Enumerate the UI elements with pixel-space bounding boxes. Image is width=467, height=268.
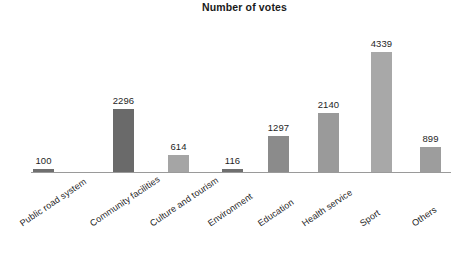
bar bbox=[113, 109, 134, 172]
plot-area: 1002296614116129721404339899 Public road… bbox=[0, 0, 467, 268]
bar-value-label: 116 bbox=[213, 155, 253, 166]
bar-value-label: 2296 bbox=[104, 95, 144, 106]
x-axis-baseline bbox=[31, 172, 451, 173]
bar-value-label: 899 bbox=[411, 133, 451, 144]
category-label: Sport bbox=[358, 208, 382, 229]
bar-value-label: 1297 bbox=[259, 122, 299, 133]
bar bbox=[268, 136, 289, 172]
category-label: Education bbox=[256, 197, 296, 228]
bar bbox=[168, 155, 189, 172]
bar-chart: Number of votes 100229661411612972140433… bbox=[0, 0, 467, 268]
bar-value-label: 2140 bbox=[309, 99, 349, 110]
bar-value-label: 100 bbox=[24, 155, 64, 166]
bar bbox=[318, 113, 339, 172]
bar bbox=[371, 52, 392, 172]
category-label: Public road system bbox=[18, 176, 88, 228]
category-label: Health service bbox=[300, 187, 354, 228]
category-label: Environment bbox=[206, 191, 254, 228]
bar bbox=[420, 147, 441, 172]
category-label: Others bbox=[410, 205, 438, 229]
bar-value-label: 4339 bbox=[362, 38, 402, 49]
bar-value-label: 614 bbox=[159, 141, 199, 152]
